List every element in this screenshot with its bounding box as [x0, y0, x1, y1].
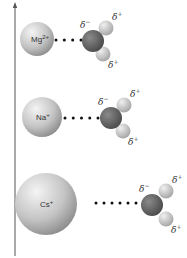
oxygen-atom — [141, 194, 163, 216]
partial-positive-label: δ+ — [172, 173, 182, 185]
ion-row-na: Na+δ−δ+δ+ — [22, 87, 140, 147]
arrowhead-icon — [13, 2, 17, 8]
oxygen-atom — [82, 30, 104, 52]
ion-dipole-bond — [95, 202, 138, 205]
ion-dipole-bond — [64, 117, 100, 120]
partial-negative-label: δ− — [98, 95, 108, 107]
partial-positive-label: δ+ — [130, 87, 140, 99]
ion-row-cs: Cs+δ−δ+δ+ — [15, 173, 182, 235]
oxygen-atom — [100, 107, 122, 129]
partial-positive-label: δ+ — [108, 58, 118, 70]
partial-negative-label: δ− — [80, 18, 90, 30]
partial-negative-label: δ− — [139, 182, 149, 194]
water-molecule — [141, 184, 174, 227]
ion-dipole-bond — [55, 39, 83, 42]
ion-row-mg: Mg2+δ−δ+δ+ — [20, 10, 122, 70]
ion-hydration-diagram: Mg2+δ−δ+δ+Na+δ−δ+δ+Cs+δ−δ+δ+ — [0, 0, 187, 258]
hydrogen-atom — [159, 184, 174, 199]
axis-arrow — [13, 2, 17, 256]
partial-positive-label: δ+ — [171, 223, 181, 235]
partial-positive-label: δ+ — [112, 10, 122, 22]
water-molecule — [100, 98, 132, 139]
water-molecule — [82, 21, 114, 62]
partial-positive-label: δ+ — [128, 135, 138, 147]
